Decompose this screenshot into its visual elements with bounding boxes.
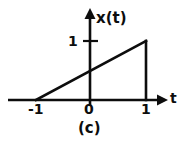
origin-label: 0: [84, 102, 94, 116]
signal-plot-figure: x(t) 1 -1 0 1 t (c): [0, 0, 185, 145]
y-axis-arrowhead: [85, 8, 96, 19]
x-tick-label-1: 1: [141, 102, 151, 116]
y-axis-label: x(t): [96, 11, 127, 26]
y-tick-label-1: 1: [68, 34, 78, 48]
figure-caption: (c): [78, 121, 101, 136]
x-axis-arrowhead: [157, 95, 168, 106]
x-tick-label-minus-1: -1: [28, 102, 44, 116]
x-axis-label: t: [170, 91, 177, 105]
